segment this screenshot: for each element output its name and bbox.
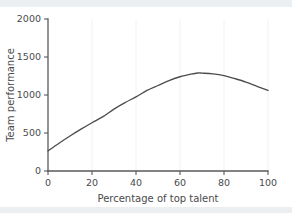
y-axis bbox=[44, 19, 48, 171]
x-tick-label: 100 bbox=[259, 177, 277, 188]
y-tick-label: 1000 bbox=[17, 89, 41, 100]
x-tick-label: 20 bbox=[86, 177, 98, 188]
y-tick-label: 1500 bbox=[17, 51, 41, 62]
y-tick-label: 2000 bbox=[17, 13, 41, 24]
y-axis-title: Team performance bbox=[5, 48, 16, 143]
x-tick-label: 40 bbox=[130, 177, 142, 188]
x-tick-labels: 020406080100 bbox=[45, 177, 277, 188]
plot-gridlines bbox=[92, 19, 268, 171]
x-tick-label: 60 bbox=[174, 177, 186, 188]
y-tick-labels: 0500100015002000 bbox=[17, 13, 41, 176]
x-axis bbox=[48, 171, 268, 175]
x-tick-label: 80 bbox=[218, 177, 230, 188]
x-tick-label: 0 bbox=[45, 177, 51, 188]
y-tick-label: 500 bbox=[23, 127, 41, 138]
y-tick-label: 0 bbox=[35, 165, 41, 176]
x-axis-title: Percentage of top talent bbox=[97, 193, 218, 204]
chart-figure: 0500100015002000 020406080100 Team perfo… bbox=[0, 0, 292, 213]
performance-curve bbox=[48, 73, 268, 151]
line-chart-svg: 0500100015002000 020406080100 Team perfo… bbox=[0, 0, 292, 213]
